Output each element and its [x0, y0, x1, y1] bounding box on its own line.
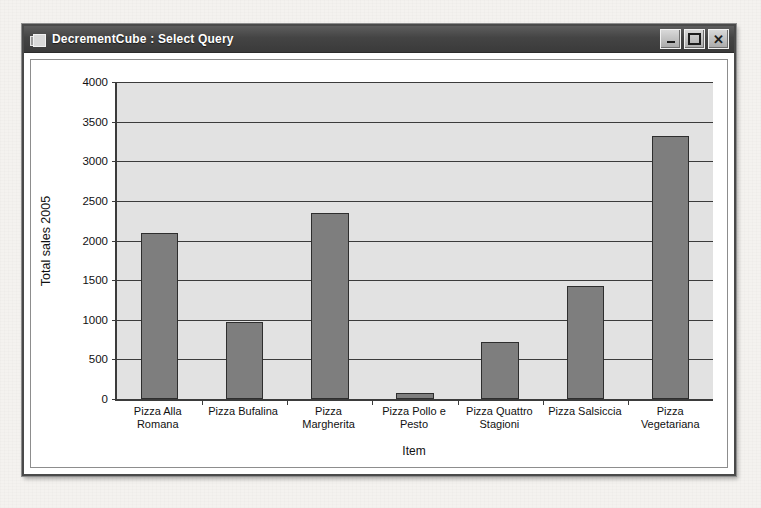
bar[interactable]: [567, 286, 604, 399]
y-axis-tick-label: 1500: [82, 274, 108, 286]
query-window: DecrementCube : Select Query ✕ Total sal…: [22, 24, 736, 476]
x-axis-label: Pizza Salsiccia: [542, 405, 627, 430]
maximize-button[interactable]: [684, 29, 705, 49]
y-axis-tick-label: 500: [89, 353, 108, 365]
x-axis-label: Pizza Quattro Stagioni: [457, 405, 542, 430]
y-axis-tick-label: 4000: [82, 76, 108, 88]
window-titlebar[interactable]: DecrementCube : Select Query ✕: [24, 26, 734, 53]
bar[interactable]: [141, 233, 178, 399]
gridline: [117, 399, 713, 400]
bar[interactable]: [481, 342, 518, 399]
x-axis-title: Item: [115, 444, 713, 458]
y-axis-tick: [112, 399, 117, 400]
bar-slot: [117, 82, 202, 399]
y-axis-tick-label: 3500: [82, 116, 108, 128]
window-controls: ✕: [660, 29, 731, 49]
bar-slot: [202, 82, 287, 399]
chart-container: Total sales 2005 05001000150020002500300…: [30, 59, 728, 468]
bar[interactable]: [396, 393, 433, 399]
x-axis-label: Pizza Alla Romana: [115, 405, 200, 430]
bar-series: [117, 82, 713, 399]
x-axis-label: Pizza Margherita: [286, 405, 371, 430]
bar[interactable]: [652, 136, 689, 399]
bar-slot: [458, 82, 543, 399]
bar-slot: [628, 82, 713, 399]
bar[interactable]: [311, 213, 348, 399]
minimize-button[interactable]: [660, 29, 681, 49]
bar-slot: [543, 82, 628, 399]
y-axis-title: Total sales 2005: [37, 82, 55, 399]
y-axis-tick-label: 2000: [82, 235, 108, 247]
x-axis-labels: Pizza Alla RomanaPizza BufalinaPizza Mar…: [115, 405, 713, 430]
close-icon: ✕: [709, 30, 728, 48]
y-axis-tick-label: 3000: [82, 155, 108, 167]
y-axis-title-text: Total sales 2005: [39, 195, 53, 285]
bar-slot: [372, 82, 457, 399]
window-client-area: Total sales 2005 05001000150020002500300…: [24, 53, 734, 474]
query-window-icon: [30, 32, 46, 47]
y-axis-tick-label: 2500: [82, 195, 108, 207]
x-axis-label: Pizza Vegetariana: [628, 405, 713, 430]
close-button[interactable]: ✕: [708, 29, 729, 49]
bar[interactable]: [226, 322, 263, 399]
bar-slot: [287, 82, 372, 399]
x-axis-label: Pizza Bufalina: [200, 405, 285, 430]
x-axis-label: Pizza Pollo e Pesto: [371, 405, 456, 430]
y-axis-tick-label: 0: [102, 393, 108, 405]
plot-area: 05001000150020002500300035004000: [115, 82, 713, 401]
window-title: DecrementCube : Select Query: [52, 32, 234, 46]
y-axis-tick-label: 1000: [82, 314, 108, 326]
